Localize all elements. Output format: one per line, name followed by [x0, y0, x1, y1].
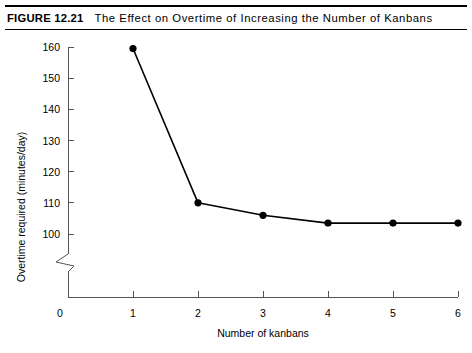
chart-plot-area: Overtime required (minutes/day) 10011012… — [0, 32, 472, 353]
header-rule-top — [5, 5, 467, 7]
x-axis-tick-labels: 0123456 — [57, 307, 461, 319]
y-axis-tick-labels: 100110120130140150160 — [42, 41, 60, 240]
y-tick-label: 120 — [42, 166, 60, 178]
y-axis-title: Overtime required (minutes/day) — [15, 132, 27, 283]
x-tick-label: 4 — [325, 307, 331, 319]
line-chart: Overtime required (minutes/day) 10011012… — [0, 32, 472, 353]
x-axis-title: Number of kanbans — [217, 327, 309, 339]
data-point — [194, 199, 201, 206]
figure-header: FIGURE 12.21The Effect on Overtime of In… — [0, 0, 472, 32]
data-point — [389, 219, 396, 226]
data-point — [259, 212, 266, 219]
figure-title-label: The Effect on Overtime of Increasing the… — [95, 12, 433, 24]
x-tick-label: 5 — [390, 307, 396, 319]
data-point — [129, 45, 136, 52]
y-axis-tick-marks — [68, 47, 74, 234]
figure-number-label: FIGURE 12.21 — [7, 12, 84, 24]
data-point — [324, 219, 331, 226]
y-tick-label: 160 — [42, 41, 60, 53]
data-point — [454, 219, 461, 226]
x-tick-label: 2 — [195, 307, 201, 319]
y-tick-label: 110 — [43, 197, 60, 209]
header-rule-bottom — [5, 29, 467, 30]
origin-tick-label: 0 — [57, 307, 63, 319]
y-tick-label: 140 — [42, 103, 60, 115]
y-axis-break-symbol — [56, 254, 74, 272]
y-tick-label: 100 — [42, 228, 60, 240]
y-tick-label: 130 — [42, 135, 60, 147]
x-tick-label: 3 — [260, 307, 266, 319]
x-tick-label: 1 — [130, 307, 136, 319]
x-tick-label: 6 — [455, 307, 461, 319]
x-axis-tick-marks — [68, 291, 458, 297]
y-tick-label: 150 — [42, 72, 60, 84]
series-markers-overtime — [129, 45, 461, 227]
figure-caption: FIGURE 12.21The Effect on Overtime of In… — [7, 10, 467, 27]
series-line-overtime — [133, 49, 458, 224]
